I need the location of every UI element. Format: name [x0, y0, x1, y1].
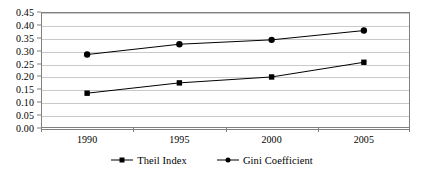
y-tick-mark — [37, 102, 41, 103]
gridline — [42, 52, 409, 53]
legend-marker-circle-icon — [217, 155, 239, 165]
y-tick-label: 0.30 — [16, 45, 34, 56]
plot-area — [41, 12, 410, 128]
y-tick-label: 0.20 — [16, 71, 34, 82]
y-tick-mark — [37, 12, 41, 13]
y-tick-label: 0.25 — [16, 58, 34, 69]
y-tick-mark — [37, 115, 41, 116]
x-tick-label: 2000 — [261, 134, 281, 145]
x-tick-mark — [409, 128, 410, 132]
legend-label-theil-index: Theil Index — [137, 155, 187, 166]
line-chart: 0.450.400.350.300.250.200.150.100.050.00… — [0, 0, 424, 172]
gridline — [42, 26, 409, 27]
y-tick-mark — [37, 24, 41, 25]
y-tick-mark — [37, 89, 41, 90]
x-tick-label: 1990 — [77, 134, 97, 145]
y-tick-label: 0.45 — [16, 7, 34, 18]
x-tick-mark — [41, 128, 42, 132]
x-tick-mark — [318, 128, 319, 132]
gridline — [42, 103, 409, 104]
legend-item-gini-coefficient: Gini Coefficient — [217, 155, 313, 166]
x-tick-label: 2005 — [354, 134, 374, 145]
legend-label-gini-coefficient: Gini Coefficient — [243, 155, 313, 166]
y-axis: 0.450.400.350.300.250.200.150.100.050.00 — [0, 12, 41, 128]
y-tick-label: 0.35 — [16, 32, 34, 43]
legend-marker-square-icon — [111, 155, 133, 165]
gridline — [42, 77, 409, 78]
gridline — [42, 39, 409, 40]
gridline — [42, 90, 409, 91]
y-tick-label: 0.10 — [16, 97, 34, 108]
y-tick-mark — [37, 37, 41, 38]
y-tick-mark — [37, 63, 41, 64]
y-tick-label: 0.40 — [16, 19, 34, 30]
y-tick-label: 0.15 — [16, 84, 34, 95]
legend-item-theil-index: Theil Index — [111, 155, 187, 166]
gridline — [42, 116, 409, 117]
y-tick-mark — [37, 76, 41, 77]
y-tick-label: 0.05 — [16, 110, 34, 121]
x-tick-mark — [226, 128, 227, 132]
y-tick-label: 0.00 — [16, 123, 34, 134]
x-axis: 1990199520002005 — [41, 128, 410, 150]
y-tick-mark — [37, 50, 41, 51]
gridline — [42, 65, 409, 66]
gridline — [42, 13, 409, 14]
x-tick-label: 1995 — [169, 134, 189, 145]
gridlines — [42, 13, 409, 127]
x-tick-mark — [133, 128, 134, 132]
chart-legend: Theil Index Gini Coefficient — [0, 150, 424, 170]
